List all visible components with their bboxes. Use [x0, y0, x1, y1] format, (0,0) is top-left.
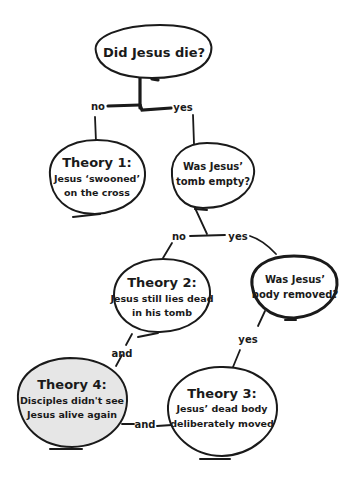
theory1-line2: on the cross — [64, 187, 130, 198]
connector-root-no — [108, 105, 140, 106]
edge-label-tomb-yes: yes — [228, 231, 247, 242]
edge-label-removed-yes: yes — [238, 334, 257, 345]
theory2-title: Theory 2: — [127, 275, 197, 290]
connector-removed-yes — [258, 311, 265, 326]
theory3-line2: deliberately moved — [170, 418, 274, 429]
theory3-line1: Jesus’ dead body — [175, 403, 268, 414]
theory1-title: Theory 1: — [62, 155, 132, 170]
node-foot — [195, 209, 207, 210]
theory4-line1: Disciples didn't see — [20, 395, 124, 406]
root-question: Did Jesus die? — [103, 45, 205, 60]
node-body-removed: Was Jesus’ body removed? — [252, 256, 339, 320]
theory3-title: Theory 3: — [187, 386, 257, 401]
node-theory-1: Theory 1: Jesus ‘swooned’ on the cross — [50, 140, 145, 217]
theory4-title: Theory 4: — [37, 377, 107, 392]
theory2-line2: in his tomb — [132, 307, 192, 318]
node-theory-4: Theory 4: Disciples didn't see Jesus ali… — [18, 358, 127, 449]
theory2-line1: Jesus still lies dead — [109, 293, 213, 304]
connector-tomb-no — [190, 235, 225, 236]
connector-yes-tomb — [193, 115, 194, 144]
connector-yes-removed — [250, 236, 276, 254]
edge-label-theory2-and: and — [111, 348, 132, 359]
theory1-line1: Jesus ‘swooned’ — [53, 173, 140, 184]
connector-no-theory1 — [95, 117, 96, 142]
edge-label-root-no: no — [91, 101, 105, 112]
node-theory-3: Theory 3: Jesus’ dead body deliberately … — [168, 367, 277, 459]
edge-label-root-yes: yes — [173, 102, 192, 113]
connector-theory2-and — [126, 334, 132, 345]
tomb-question-line2: tomb empty? — [176, 176, 250, 187]
edge-label-theory3-and: and — [134, 419, 155, 430]
connector-root-yes — [140, 105, 171, 110]
node-foot — [138, 333, 158, 337]
node-theory-2: Theory 2: Jesus still lies dead in his t… — [109, 259, 213, 337]
tomb-question-line1: Was Jesus’ — [183, 161, 243, 172]
flowchart-canvas: Did Jesus die? Theory 1: Jesus ‘swooned’… — [0, 0, 363, 482]
removed-question-line2: body removed? — [252, 289, 339, 300]
connector-tomb-branch — [195, 208, 207, 234]
node-did-jesus-die: Did Jesus die? — [96, 25, 212, 78]
node-tomb-empty: Was Jesus’ tomb empty? — [172, 143, 254, 210]
connector-no-theory2 — [163, 243, 172, 258]
connector-yes-theory3 — [233, 350, 240, 367]
connector-root-branch — [140, 78, 158, 108]
edge-label-tomb-no: no — [172, 231, 186, 242]
theory4-line2: Jesus alive again — [26, 409, 117, 420]
removed-question-line1: Was Jesus’ — [265, 274, 325, 285]
